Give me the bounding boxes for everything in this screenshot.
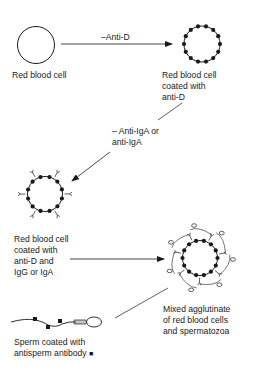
label-anti-d-edge: –Anti-D bbox=[101, 32, 130, 43]
mixed-agglutinate-icon bbox=[167, 224, 235, 292]
arrow-antiglobulin bbox=[72, 152, 110, 181]
sperm-icon bbox=[11, 317, 102, 329]
antibody-legend-marker: ■ bbox=[89, 350, 93, 357]
rbc-coated-anti-d-icon bbox=[182, 24, 222, 63]
rbc-coated-anti-d-igg-iga-icon bbox=[18, 170, 72, 218]
label-sperm: Sperm coated with antisperm antibody ■ bbox=[14, 337, 93, 359]
red-blood-cell-icon bbox=[18, 27, 55, 64]
label-antiglobulin-edge: – Anti-IgA or anti-IgA bbox=[112, 126, 159, 148]
label-sperm-text: Sperm coated with antisperm antibody bbox=[14, 337, 87, 358]
connector-anti-d-to-antiglobulin bbox=[158, 103, 182, 120]
label-red-blood-cell: Red blood cell bbox=[12, 70, 66, 81]
label-rbc-coated-anti-d: Red blood cell coated with anti-D bbox=[162, 70, 216, 103]
label-mixed-agglutinate: Mixed agglutinate of red blood cells and… bbox=[163, 304, 230, 337]
label-rbc-coated-anti-d-ig: Red blood cell coated with anti-D and Ig… bbox=[14, 234, 68, 278]
connector-sperm-to-agglutinate bbox=[115, 288, 168, 318]
